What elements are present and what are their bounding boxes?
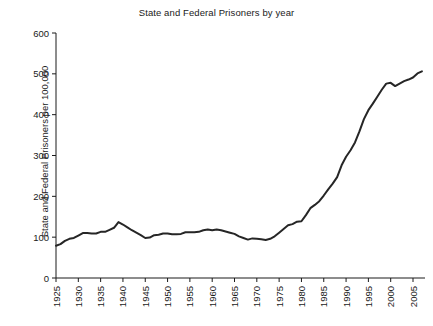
plot-area: 0100200300400500600 19251930193519401945… xyxy=(0,0,433,326)
y-tick-label: 100 xyxy=(33,232,49,243)
data-series-line xyxy=(56,71,422,245)
x-tick-label: 1955 xyxy=(184,286,195,307)
x-tick-label: 1985 xyxy=(318,286,329,307)
x-tick-label: 2000 xyxy=(385,286,396,307)
y-tick-label: 600 xyxy=(33,28,49,39)
y-tick-label: 0 xyxy=(44,273,49,284)
x-tick-label: 1945 xyxy=(140,286,151,307)
x-tick-label: 1990 xyxy=(341,286,352,307)
x-tick-label: 1965 xyxy=(229,286,240,307)
prisoners-line-chart: State and Federal Prisoners by year Stat… xyxy=(0,0,433,326)
x-tick-label: 1960 xyxy=(207,286,218,307)
x-tick-label: 1940 xyxy=(117,286,128,307)
y-tick-label: 200 xyxy=(33,191,49,202)
x-tick-label: 1995 xyxy=(363,286,374,307)
y-axis: 0100200300400500600 xyxy=(33,28,56,284)
x-tick-label: 2005 xyxy=(408,286,419,307)
y-tick-label: 400 xyxy=(33,109,49,120)
x-tick-label: 1980 xyxy=(296,286,307,307)
x-tick-label: 1930 xyxy=(73,286,84,307)
x-tick-label: 1975 xyxy=(274,286,285,307)
y-tick-label: 500 xyxy=(33,68,49,79)
x-tick-label: 1925 xyxy=(51,286,62,307)
x-tick-label: 1950 xyxy=(162,286,173,307)
x-tick-label: 1935 xyxy=(95,286,106,307)
y-tick-label: 300 xyxy=(33,150,49,161)
x-axis: 1925193019351940194519501955196019651970… xyxy=(51,278,426,307)
x-tick-label: 1970 xyxy=(251,286,262,307)
